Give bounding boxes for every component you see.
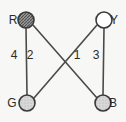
edge-weight-r-b: 2 xyxy=(27,48,34,62)
node-label-g: G xyxy=(7,96,16,110)
graph-canvas: R Y G B 4 2 1 3 xyxy=(0,0,126,122)
node-label-r: R xyxy=(9,13,18,27)
edge-weight-y-g: 1 xyxy=(74,48,81,62)
node-g[interactable] xyxy=(19,95,35,111)
edge-weight-r-g: 4 xyxy=(11,48,18,62)
edge-y-b[interactable] xyxy=(103,28,104,95)
node-label-b: B xyxy=(109,96,117,110)
edge-weight-y-b: 3 xyxy=(93,48,100,62)
graph-diagram-container: R Y G B 4 2 1 3 xyxy=(0,0,126,122)
node-r[interactable] xyxy=(18,12,34,28)
node-label-y: Y xyxy=(110,13,118,27)
